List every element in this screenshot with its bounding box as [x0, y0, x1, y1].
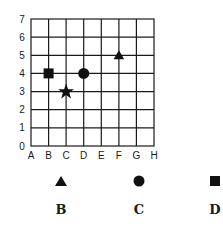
triangle-icon — [55, 176, 67, 186]
x-axis-labels: A B C D E F G H — [28, 150, 158, 161]
y-label-2: 2 — [19, 104, 25, 115]
y-label-1: 1 — [19, 122, 25, 133]
y-label-7: 7 — [19, 14, 25, 25]
x-label-b: B — [45, 150, 52, 161]
option-c[interactable]: C — [134, 176, 145, 218]
option-d-label: D — [209, 202, 220, 217]
y-axis-labels: 0 1 2 3 4 5 6 7 — [19, 14, 25, 152]
y-label-5: 5 — [19, 50, 25, 61]
y-label-0: 0 — [19, 141, 25, 152]
x-label-d: D — [80, 150, 87, 161]
option-b[interactable]: B — [55, 176, 67, 217]
x-label-c: C — [62, 150, 69, 161]
answer-options: B C D — [55, 176, 221, 218]
x-label-a: A — [28, 150, 35, 161]
square-icon — [44, 68, 54, 78]
grid-border — [31, 19, 154, 146]
circle-icon — [134, 176, 145, 187]
y-label-4: 4 — [19, 68, 25, 79]
y-label-3: 3 — [19, 86, 25, 97]
square-icon — [210, 176, 220, 186]
coordinate-grid — [31, 19, 154, 146]
circle-icon — [78, 68, 89, 79]
option-d[interactable]: D — [209, 176, 220, 217]
option-b-label: B — [56, 202, 67, 217]
option-c-label: C — [134, 202, 144, 217]
y-label-6: 6 — [19, 32, 25, 43]
coordinate-grid-figure: 0 1 2 3 4 5 6 7 A B C D E F G H B C — [0, 0, 223, 227]
x-label-g: G — [133, 150, 141, 161]
x-label-f: F — [116, 150, 122, 161]
x-label-h: H — [150, 150, 157, 161]
x-label-e: E — [98, 150, 105, 161]
